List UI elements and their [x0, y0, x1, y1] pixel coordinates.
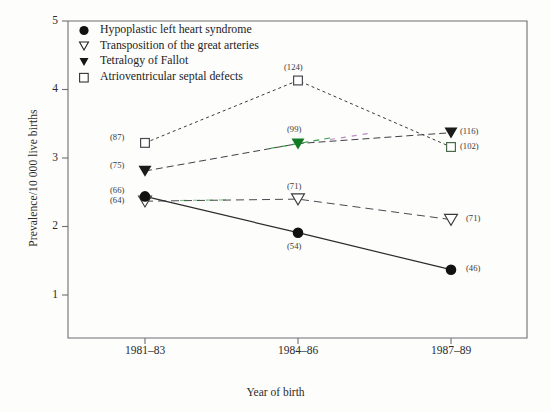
- x-axis-title: Year of birth: [0, 386, 551, 398]
- legend-label-avsd: Atrioventricular septal defects: [96, 69, 243, 85]
- open-triangle-down-icon: [78, 39, 96, 51]
- legend: Hypoplastic left heart syndrome Transpos…: [78, 22, 259, 84]
- legend-item-hypoplastic-left-heart-syndrome[interactable]: Hypoplastic left heart syndrome: [78, 22, 259, 38]
- x-tick-1987-89: 1987–89: [406, 344, 496, 356]
- y-axis-ticks: [62, 21, 68, 295]
- point-label-hlhs-1981-83: (66): [110, 185, 124, 195]
- figure-container: Hypoplastic left heart syndrome Transpos…: [0, 0, 551, 412]
- legend-label-tga: Transposition of the great arteries: [96, 38, 259, 54]
- y-axis-title: Prevalence/10 000 live births: [27, 83, 39, 273]
- legend-item-tetralogy-of-fallot[interactable]: Tetralogy of Fallot: [78, 53, 259, 69]
- marker-group-transposition-of-the-great-arteries: [139, 194, 458, 226]
- point-label-tof-1984-86: (99): [287, 124, 301, 134]
- point-label-avsd-1981-83: (87): [110, 132, 124, 142]
- filled-circle-icon: [78, 24, 96, 36]
- legend-item-transposition-of-the-great-arteries[interactable]: Transposition of the great arteries: [78, 38, 259, 54]
- legend-item-atrioventricular-septal-defects[interactable]: Atrioventricular septal defects: [78, 69, 259, 85]
- point-label-tof-1987-89: (116): [460, 126, 478, 136]
- point-label-hlhs-1984-86: (54): [287, 241, 301, 251]
- y-tick-5: 5: [32, 14, 58, 26]
- x-tick-1981-83: 1981–83: [100, 344, 190, 356]
- legend-label-hlhs: Hypoplastic left heart syndrome: [96, 22, 252, 38]
- open-square-icon: [78, 71, 96, 83]
- point-label-avsd-1984-86: (124): [284, 62, 303, 72]
- point-label-tga-1987-89: (71): [466, 213, 480, 223]
- legend-label-tof: Tetralogy of Fallot: [96, 53, 188, 69]
- point-label-tga-1984-86: (71): [287, 181, 301, 191]
- series-line-atrioventricular-septal-defects: [145, 81, 451, 148]
- point-label-tof-1981-83: (75): [110, 160, 124, 170]
- filled-triangle-down-icon: [78, 55, 96, 67]
- point-label-avsd-1987-89: (102): [460, 141, 479, 151]
- y-tick-1: 1: [32, 288, 58, 300]
- point-label-hlhs-1987-89: (46): [466, 263, 480, 273]
- point-label-tga-1981-83: (64): [110, 195, 124, 205]
- x-tick-1984-86: 1984–86: [253, 344, 343, 356]
- marker-group-tetralogy-of-fallot: [139, 128, 458, 177]
